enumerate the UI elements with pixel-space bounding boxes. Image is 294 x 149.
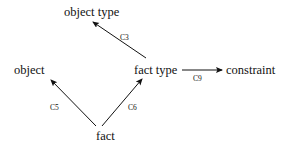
node-fact: fact (96, 130, 115, 143)
edge-label-c9: C9 (193, 75, 202, 83)
edge-label-c6: C6 (128, 104, 137, 112)
diagram-canvas: object type object fact type constraint … (0, 0, 294, 149)
node-constraint: constraint (226, 64, 275, 77)
node-fact-type: fact type (134, 64, 177, 77)
edge-label-c3: C3 (120, 34, 129, 42)
edge-label-c5: C5 (50, 104, 59, 112)
node-object-type: object type (64, 6, 119, 19)
node-object: object (14, 64, 45, 77)
